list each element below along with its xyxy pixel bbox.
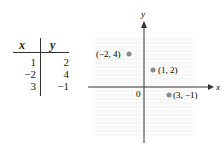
y-axis-arrow-icon [141, 21, 147, 28]
point-marker [167, 93, 172, 98]
point-marker [127, 52, 132, 57]
y-axis-label: y [140, 9, 145, 19]
point-marker [151, 68, 156, 73]
origin-label: 0 [136, 89, 141, 99]
point-label: (3, −1) [173, 90, 198, 100]
point-label: (−2, 4) [96, 49, 121, 59]
x-axis-label: x [215, 82, 220, 92]
point-label: (1, 2) [158, 65, 178, 75]
coordinate-plane: x y 0 (−2, 4) (1, 2) (3, −1) [0, 0, 221, 150]
x-axis-arrow-icon [208, 84, 214, 90]
